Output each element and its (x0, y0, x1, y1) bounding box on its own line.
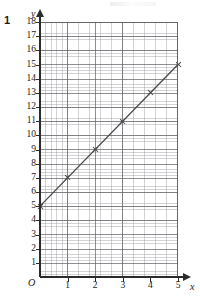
y-tick-mark (36, 263, 41, 264)
x-tick-mark (150, 277, 151, 282)
line-chart: y x O 181716151413121110987654321 12345 (0, 0, 200, 302)
y-tick-mark (36, 93, 41, 94)
y-tick-mark (36, 164, 41, 165)
x-axis-arrow-icon (183, 273, 191, 281)
y-tick-mark (36, 192, 41, 193)
y-tick-mark (36, 178, 41, 179)
y-tick-label: 13 (20, 88, 36, 98)
x-tick-label: 5 (170, 281, 186, 291)
x-tick-mark (95, 277, 96, 282)
y-tick-mark (36, 206, 41, 207)
page-root: 1 y x O 181716151413121110987654321 1234… (0, 0, 200, 302)
y-tick-mark (36, 249, 41, 250)
y-tick-mark (36, 79, 41, 80)
y-tick-label: 17 (20, 31, 36, 41)
y-tick-mark (36, 36, 41, 37)
y-tick-label: 15 (20, 60, 36, 70)
data-point-marker (119, 118, 126, 125)
y-tick-mark (36, 121, 41, 122)
x-tick-mark (178, 277, 179, 282)
y-tick-mark (36, 107, 41, 108)
y-tick-label: 5 (20, 201, 36, 211)
y-tick-label: 14 (20, 74, 36, 84)
x-tick-mark (123, 277, 124, 282)
data-point-marker (92, 146, 99, 153)
y-tick-label: 7 (20, 173, 36, 183)
y-tick-mark (36, 65, 41, 66)
x-tick-label: 3 (115, 281, 131, 291)
y-tick-label: 8 (20, 159, 36, 169)
y-tick-label: 11 (20, 116, 36, 126)
y-tick-label: 9 (20, 145, 36, 155)
y-tick-mark (36, 235, 41, 236)
y-tick-label: 6 (20, 187, 36, 197)
y-tick-label: 16 (20, 45, 36, 55)
x-tick-label: 1 (60, 281, 76, 291)
y-axis (39, 16, 41, 277)
plot-border (40, 22, 178, 277)
y-tick-mark (36, 135, 41, 136)
y-tick-label: 3 (20, 230, 36, 240)
y-tick-label: 4 (20, 215, 36, 225)
y-tick-mark (36, 220, 41, 221)
x-tick-label: 2 (87, 281, 103, 291)
origin-label: O (28, 277, 35, 288)
data-point-marker (147, 89, 154, 96)
y-tick-label: 10 (20, 130, 36, 140)
x-tick-label: 4 (142, 281, 158, 291)
y-tick-label: 2 (20, 244, 36, 254)
y-tick-mark (36, 50, 41, 51)
x-axis-label: x (190, 281, 194, 292)
data-point-marker (64, 174, 71, 181)
data-point-marker (175, 61, 182, 68)
y-tick-label: 1 (20, 258, 36, 268)
y-axis-arrow-icon (36, 9, 44, 17)
y-tick-mark (36, 22, 41, 23)
y-tick-mark (36, 150, 41, 151)
y-tick-label: 12 (20, 102, 36, 112)
plot-area (40, 22, 178, 277)
x-axis (40, 276, 184, 278)
x-tick-mark (68, 277, 69, 282)
y-tick-label: 18 (20, 17, 36, 27)
